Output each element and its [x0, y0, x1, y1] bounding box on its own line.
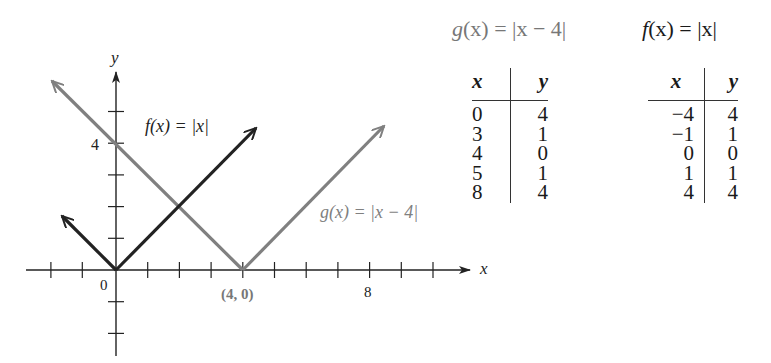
- table-cell: 4: [648, 183, 705, 203]
- y-axis-label: y: [109, 48, 119, 67]
- table-f-fn-body: (x) = |x|: [648, 16, 717, 41]
- table-f-col-x: x: [648, 68, 705, 101]
- table-cell: 4: [511, 101, 549, 125]
- series-g: [52, 81, 384, 270]
- x-axis-label: x: [479, 259, 488, 278]
- vertex-label: (4, 0): [221, 286, 254, 303]
- table-cell: 0: [648, 144, 705, 164]
- table-f-col-y: y: [705, 68, 739, 101]
- table-cell: 1: [648, 164, 705, 184]
- table-cell: 4: [511, 183, 549, 203]
- table-f-grid: x y −44 −11 00 11 44: [648, 68, 738, 203]
- table-f: f(x) = |x| x y −44 −11 00 11 44: [642, 16, 717, 42]
- table-cell: 4: [705, 101, 739, 125]
- table-row: 84: [472, 183, 548, 203]
- table-cell: 8: [472, 183, 511, 203]
- table-cell: 0: [472, 101, 511, 125]
- table-g-fn-name: g: [452, 16, 463, 41]
- table-g-title: g(x) = |x − 4|: [452, 16, 566, 42]
- table-row: 31: [472, 125, 548, 145]
- table-row: 04: [472, 101, 548, 125]
- g-series-label: g(x) = |x − 4|: [320, 202, 418, 223]
- table-g-col-x: x: [472, 68, 511, 101]
- table-g-grid: x y 04 31 40 51 84: [472, 68, 548, 203]
- table-cell: 4: [705, 183, 739, 203]
- graph-plot: y x 0 8 4 (4, 0) f(x) = |x| g(x) = |x − …: [0, 0, 500, 363]
- table-g-fn-body: (x) = |x − 4|: [463, 16, 566, 41]
- table-row: 44: [648, 183, 738, 203]
- f-series-label: f(x) = |x|: [145, 116, 209, 137]
- table-cell: −4: [648, 101, 705, 125]
- table-row: 40: [472, 144, 548, 164]
- y-tick-label-4: 4: [91, 136, 99, 153]
- table-g: g(x) = |x − 4| x y 04 31 40 51 84: [452, 16, 566, 42]
- table-row: −44: [648, 101, 738, 125]
- x-tick-label-8: 8: [364, 284, 372, 300]
- origin-label: 0: [100, 277, 108, 293]
- table-f-title: f(x) = |x|: [642, 16, 717, 42]
- table-row: 51: [472, 164, 548, 184]
- table-cell: −1: [648, 125, 705, 145]
- table-g-col-y: y: [511, 68, 549, 101]
